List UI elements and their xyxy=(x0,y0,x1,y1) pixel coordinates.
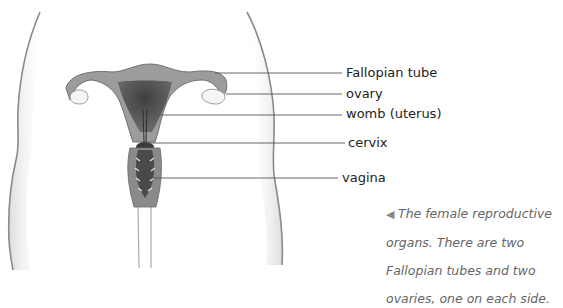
ovary-right xyxy=(202,89,225,104)
caption-text: The female reproductive organs. There ar… xyxy=(386,206,552,306)
figure-caption: ◀The female reproductive organs. There a… xyxy=(386,200,563,308)
label-ovary: ovary xyxy=(346,86,383,102)
leg-lines xyxy=(138,207,151,268)
label-vagina: vagina xyxy=(342,170,386,186)
body-outline-right xyxy=(247,12,282,265)
ovary-left xyxy=(70,90,88,104)
label-fallopian-tube: Fallopian tube xyxy=(346,65,437,81)
uterus-illustration xyxy=(66,64,227,207)
caption-arrow-icon: ◀ xyxy=(386,208,394,221)
label-cervix: cervix xyxy=(348,135,388,151)
label-womb: womb (uterus) xyxy=(346,106,441,122)
body-outline-left xyxy=(9,12,46,270)
